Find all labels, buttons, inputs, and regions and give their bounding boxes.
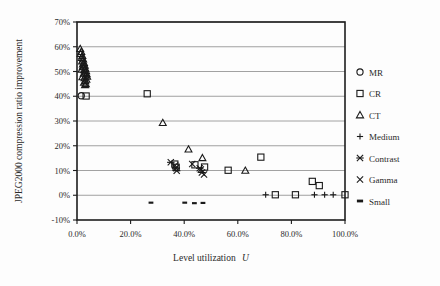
legend-label-small: Small bbox=[369, 197, 391, 207]
marker-square bbox=[309, 178, 315, 184]
marker-plus bbox=[311, 192, 317, 198]
y-tick-label: 60% bbox=[54, 42, 70, 52]
legend-item-cr[interactable]: CR bbox=[357, 89, 381, 99]
y-tick-label: -10% bbox=[52, 215, 70, 225]
y-tick-label: 40% bbox=[54, 91, 70, 101]
series-small bbox=[149, 202, 206, 205]
x-tick-label: 80.0% bbox=[280, 229, 302, 239]
y-tick-label: 10% bbox=[54, 166, 70, 176]
y-tick-label: 20% bbox=[54, 141, 70, 151]
marker-square bbox=[272, 192, 278, 198]
marker-dash bbox=[149, 202, 154, 204]
x-tick-label: 60.0% bbox=[227, 229, 249, 239]
marker-triangle bbox=[356, 111, 363, 117]
marker-triangle bbox=[185, 146, 192, 152]
x-tick-label: 0.0% bbox=[68, 229, 86, 239]
legend-item-ct[interactable]: CT bbox=[356, 111, 381, 121]
marker-asterisk bbox=[356, 155, 363, 161]
chart-legend: MRCRCTMediumContrastGammaSmall bbox=[356, 68, 400, 207]
legend-label-contrast: Contrast bbox=[369, 154, 400, 164]
x-axis-title-variable: U bbox=[242, 253, 250, 263]
marker-square bbox=[316, 182, 322, 188]
figure-container: 0.0%20.0%40.0%60.0%80.0%100.0% -10%0%10%… bbox=[0, 0, 440, 286]
marker-plus bbox=[322, 192, 328, 198]
y-axis-title: JPEG2000 compression ratio improvement bbox=[14, 39, 24, 203]
marker-square bbox=[258, 154, 264, 160]
marker-square bbox=[292, 192, 298, 198]
marker-cross bbox=[357, 176, 363, 182]
x-tick-label: 100.0% bbox=[332, 229, 358, 239]
marker-dash bbox=[201, 202, 206, 204]
series-medium bbox=[263, 192, 337, 198]
series-ct bbox=[77, 45, 249, 173]
marker-dash bbox=[357, 200, 363, 203]
y-axis-tick-labels: -10%0%10%20%30%40%50%60%70% bbox=[52, 17, 70, 225]
x-axis-title: Level utilization U bbox=[173, 253, 250, 263]
x-tick-label: 20.0% bbox=[120, 229, 142, 239]
marker-plus bbox=[330, 192, 336, 198]
marker-dash bbox=[192, 202, 197, 204]
legend-item-contrast[interactable]: Contrast bbox=[356, 154, 400, 164]
marker-dash bbox=[182, 202, 187, 204]
marker-circle bbox=[357, 69, 363, 75]
marker-plus bbox=[263, 192, 269, 198]
marker-triangle bbox=[199, 154, 206, 160]
series-cr bbox=[83, 91, 348, 198]
legend-label-gamma: Gamma bbox=[369, 175, 398, 185]
scatter-chart: 0.0%20.0%40.0%60.0%80.0%100.0% -10%0%10%… bbox=[0, 0, 440, 286]
legend-label-medium: Medium bbox=[369, 132, 400, 142]
marker-triangle bbox=[159, 119, 166, 125]
legend-item-small[interactable]: Small bbox=[357, 197, 391, 207]
legend-item-medium[interactable]: Medium bbox=[357, 132, 400, 142]
y-tick-label: 70% bbox=[54, 17, 70, 27]
y-tick-label: 0% bbox=[59, 190, 70, 200]
y-tick-label: 50% bbox=[54, 67, 70, 77]
legend-label-cr: CR bbox=[369, 89, 381, 99]
legend-item-gamma[interactable]: Gamma bbox=[357, 175, 398, 185]
data-points bbox=[77, 45, 348, 204]
legend-label-ct: CT bbox=[369, 111, 381, 121]
gridlines bbox=[77, 22, 345, 195]
y-tick-label: 30% bbox=[54, 116, 70, 126]
x-tick-label: 40.0% bbox=[173, 229, 195, 239]
legend-item-mr[interactable]: MR bbox=[357, 68, 383, 78]
x-axis-title-text: Level utilization bbox=[173, 253, 236, 263]
x-axis-tick-labels: 0.0%20.0%40.0%60.0%80.0%100.0% bbox=[68, 229, 358, 239]
marker-plus bbox=[357, 133, 363, 139]
legend-label-mr: MR bbox=[369, 68, 383, 78]
marker-square bbox=[357, 90, 363, 96]
